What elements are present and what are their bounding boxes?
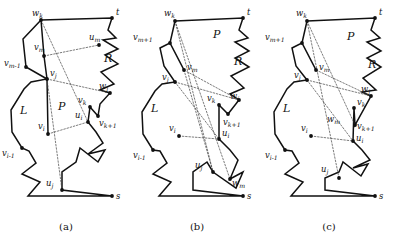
vlabel-vk1: vk+1 — [357, 121, 375, 132]
vertex-vj — [305, 78, 309, 82]
region-label-L: L — [282, 102, 290, 115]
chord-vm-uj — [184, 70, 213, 172]
panel-c: L P R wk t vm+1 vm vj wj vk wm vk+1 ui v… — [263, 0, 395, 239]
region-label-L: L — [150, 102, 158, 115]
vertex-vm — [42, 54, 46, 58]
vlabel-vk: vk — [357, 97, 366, 108]
vlabel-wk: wk — [164, 8, 175, 19]
chord-vj-ui — [175, 82, 219, 139]
region-label-R: R — [103, 52, 112, 65]
vlabel-vj: vj — [162, 72, 169, 84]
panel-b-vertices — [151, 16, 245, 198]
region-label-L: L — [19, 104, 27, 117]
vertex-ui — [351, 139, 355, 143]
vertex-vi-1 — [151, 148, 155, 152]
caption-c: (c) — [263, 221, 395, 232]
vlabel-vi-1: vi-1 — [2, 148, 15, 159]
vertex-vj — [173, 80, 177, 84]
vlabel-vi: vi — [301, 123, 308, 134]
figure-container: L P R wk t um vm vm-1 vj wj vk vk+1 ui v… — [0, 0, 395, 239]
vertex-ui — [217, 137, 221, 141]
vlabel-wk: wk — [296, 8, 307, 19]
vlabel-um: um — [89, 32, 100, 43]
solid-chain-vm1-vm — [302, 43, 316, 70]
chord-vi-ui — [311, 136, 353, 141]
vertex-uj — [337, 176, 341, 180]
panel-a: L P R wk t um vm vm-1 vj wj vk vk+1 ui v… — [0, 0, 132, 239]
vlabel-vk: vk — [78, 95, 87, 106]
vertex-vm1 — [168, 41, 172, 45]
vlabel-vk1: vk+1 — [223, 117, 241, 128]
vertex-t — [110, 16, 114, 20]
vlabel-t: t — [247, 7, 251, 17]
vlabel-vm1: vm+1 — [133, 32, 153, 43]
vlabel-wm: wm — [232, 178, 245, 189]
vlabel-ui: ui — [222, 128, 229, 139]
region-label-P: P — [346, 30, 355, 43]
vertex-wk — [173, 19, 177, 23]
vlabel-vm: vm — [187, 62, 198, 73]
caption-b: (b) — [131, 221, 263, 232]
vlabel-vm: vm — [319, 62, 330, 73]
vertex-s — [241, 194, 245, 198]
vertex-vi — [46, 132, 50, 136]
vlabel-vi: vi — [169, 123, 176, 134]
vlabel-vk1: vk+1 — [99, 118, 117, 129]
vertex-vm — [182, 68, 186, 72]
region-label-R: R — [233, 55, 242, 68]
vlabel-ui: ui — [356, 133, 363, 144]
chord-vm-um — [44, 45, 99, 56]
vlabel-t: t — [116, 7, 120, 17]
panel-a-drawing: L P R wk t um vm vm-1 vj wj vk vk+1 ui v… — [0, 0, 132, 239]
chord-vj-ui — [307, 80, 353, 141]
vertex-s — [110, 194, 114, 198]
vertex-vk — [88, 105, 92, 109]
vertex-ui — [86, 120, 90, 124]
vertex-vm — [314, 68, 318, 72]
vlabel-vi-1: vi-1 — [265, 150, 278, 161]
vlabel-vi-1: vi-1 — [133, 150, 146, 161]
vlabel-s: s — [247, 191, 252, 201]
vertex-vi — [309, 134, 313, 138]
chord-vi-ui — [179, 136, 219, 139]
vlabel-ui: ui — [75, 110, 82, 121]
vlabel-wm: wm — [327, 114, 340, 125]
vertex-uj — [211, 170, 215, 174]
vertex-vi-1 — [20, 146, 24, 150]
vertex-vk1 — [226, 112, 230, 116]
vlabel-vj: vj — [50, 68, 57, 80]
vlabel-uj: uj — [321, 164, 328, 176]
panel-b-drawing: L P R wk t vm+1 vm vj wj vk vk+1 ui vi v… — [131, 0, 263, 239]
vertex-vm1 — [300, 41, 304, 45]
vertex-vi — [177, 134, 181, 138]
vlabel-vk: vk — [207, 93, 216, 104]
vlabel-s: s — [116, 191, 121, 201]
vlabel-vm1: vm+1 — [265, 32, 285, 43]
vlabel-vi: vi — [38, 121, 45, 132]
vertex-um — [97, 43, 101, 47]
vlabel-wk: wk — [32, 8, 43, 19]
panel-b: L P R wk t vm+1 vm vj wj vk vk+1 ui vi v… — [131, 0, 263, 239]
vertex-wj — [108, 91, 112, 95]
vertex-t — [241, 16, 245, 20]
vlabel-wj: wj — [230, 91, 239, 103]
region-label-P: P — [212, 28, 221, 41]
vertex-wk — [305, 19, 309, 23]
vertex-uj — [60, 188, 64, 192]
caption-a: (a) — [0, 221, 132, 232]
chord-wk-wm — [175, 21, 230, 179]
vertex-vi-1 — [283, 148, 287, 152]
vlabel-s: s — [379, 191, 384, 201]
vertex-vj — [45, 77, 49, 81]
vertex-t — [373, 16, 377, 20]
vlabel-t: t — [379, 7, 383, 17]
panel-c-drawing: L P R wk t vm+1 vm vj wj vk wm vk+1 ui v… — [263, 0, 395, 239]
vertex-vk — [352, 106, 356, 110]
chord-wk-uj — [307, 21, 339, 178]
region-label-R: R — [367, 58, 376, 71]
vlabel-uj: uj — [46, 178, 53, 190]
region-label-P: P — [57, 100, 66, 113]
vlabel-vm-1: vm-1 — [4, 58, 21, 69]
vertex-s — [373, 194, 377, 198]
vertex-vm-1 — [24, 65, 28, 69]
